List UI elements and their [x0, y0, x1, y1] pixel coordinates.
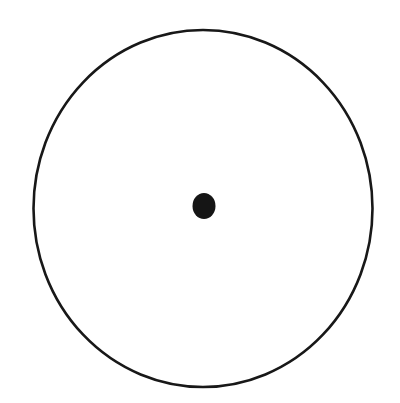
figure-canvas — [0, 0, 400, 403]
circle-diagram-svg — [0, 0, 400, 403]
center-dot — [193, 193, 216, 219]
